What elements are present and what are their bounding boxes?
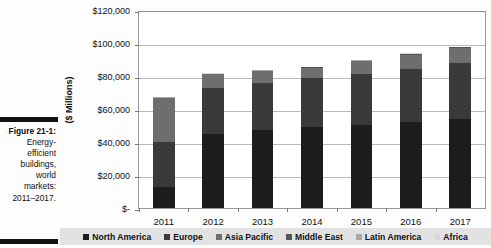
legend-label: Africa xyxy=(443,232,467,242)
stacked-bar-chart: ($ Millions) $-$20,000$40,000$60,000$80,… xyxy=(60,0,491,248)
bar-segment xyxy=(449,48,471,63)
bar-segment xyxy=(351,74,373,125)
bar-segment xyxy=(153,98,175,142)
legend-item[interactable]: Europe xyxy=(164,232,203,242)
bar-slot: 2014 xyxy=(287,12,336,208)
stacked-bar[interactable] xyxy=(301,67,323,208)
y-axis-tick-label: $20,000 xyxy=(78,171,130,181)
legend-swatch-icon xyxy=(83,234,89,240)
caption-rule-bottom xyxy=(0,239,58,244)
figure-container: Figure 21-1: Energy- efficient buildings… xyxy=(0,0,491,248)
x-axis-tick-label: 2015 xyxy=(337,216,386,227)
bar-segment xyxy=(400,55,422,69)
figure-caption-line: efficient xyxy=(0,148,56,159)
bar-segment xyxy=(400,69,422,123)
figure-caption-number: Figure 21-1: xyxy=(0,126,56,137)
figure-caption: Figure 21-1: Energy- efficient buildings… xyxy=(0,126,56,204)
bar-slot: 2016 xyxy=(386,12,435,208)
bar-segment xyxy=(351,61,373,73)
chart-legend: North AmericaEuropeAsia PacificMiddle Ea… xyxy=(60,228,491,245)
legend-item[interactable]: Latin America xyxy=(356,232,422,242)
stacked-bar[interactable] xyxy=(351,60,373,208)
stacked-bar[interactable] xyxy=(449,47,471,208)
x-axis-tick-label: 2017 xyxy=(436,216,485,227)
x-axis-tick-mark xyxy=(238,208,239,212)
x-axis-tick-mark xyxy=(386,208,387,212)
bar-segment xyxy=(252,83,274,130)
y-axis-tick-labels: $-$20,000$40,000$60,000$80,000$100,000$1… xyxy=(74,0,130,220)
plot-area: 2011201220132014201520162017 xyxy=(138,11,486,209)
bar-segment xyxy=(153,142,175,187)
legend-label: Latin America xyxy=(365,232,422,242)
legend-item[interactable]: North America xyxy=(83,232,151,242)
figure-caption-column: Figure 21-1: Energy- efficient buildings… xyxy=(0,0,60,248)
x-axis-tick-mark xyxy=(188,208,189,212)
y-axis-tick-label: $80,000 xyxy=(78,72,130,82)
bar-slot: 2015 xyxy=(337,12,386,208)
figure-caption-line: buildings, xyxy=(0,159,56,170)
y-axis-tick-label: $40,000 xyxy=(78,138,130,148)
y-axis-title: ($ Millions) xyxy=(64,77,74,124)
y-axis-tick-label: $120,000 xyxy=(78,6,130,16)
legend-label: Middle East xyxy=(295,232,343,242)
stacked-bar[interactable] xyxy=(202,73,224,208)
y-axis-tick-label: $- xyxy=(78,204,130,214)
bar-segment xyxy=(252,71,274,83)
bar-segment xyxy=(301,68,323,79)
x-axis-tick-label: 2011 xyxy=(139,216,188,227)
figure-caption-line: markets: xyxy=(0,181,56,192)
bar-segment xyxy=(153,187,175,208)
legend-swatch-icon xyxy=(216,234,222,240)
legend-item[interactable]: Middle East xyxy=(286,232,343,242)
bar-slot: 2012 xyxy=(188,12,237,208)
bar-segment xyxy=(301,78,323,127)
caption-rule-top xyxy=(0,117,58,122)
bar-segment xyxy=(400,122,422,208)
legend-label: Europe xyxy=(173,232,203,242)
y-axis-tick-label: $60,000 xyxy=(78,105,130,115)
bar-segment xyxy=(202,134,224,208)
bar-slot: 2013 xyxy=(238,12,287,208)
x-axis-tick-mark xyxy=(436,208,437,212)
figure-caption-line: Energy- xyxy=(0,137,56,148)
bar-segment xyxy=(449,119,471,208)
x-axis-tick-mark xyxy=(287,208,288,212)
x-axis-tick-label: 2014 xyxy=(287,216,336,227)
x-axis-tick-mark xyxy=(337,208,338,212)
legend-label: Asia Pacific xyxy=(225,232,273,242)
bar-segment xyxy=(351,125,373,208)
legend-item[interactable]: Asia Pacific xyxy=(216,232,273,242)
figure-caption-line: 2011–2017. xyxy=(0,193,56,204)
legend-label: North America xyxy=(92,232,151,242)
legend-swatch-icon xyxy=(434,234,440,240)
legend-swatch-icon xyxy=(164,234,170,240)
bar-segment xyxy=(202,74,224,88)
bar-slot: 2011 xyxy=(139,12,188,208)
bar-segment xyxy=(301,127,323,208)
figure-caption-line: world xyxy=(0,170,56,181)
y-axis-tick-label: $100,000 xyxy=(78,39,130,49)
bar-group: 2011201220132014201520162017 xyxy=(139,12,485,208)
x-axis-tick-label: 2012 xyxy=(188,216,237,227)
stacked-bar[interactable] xyxy=(153,97,175,208)
x-axis-tick-label: 2013 xyxy=(238,216,287,227)
bar-segment xyxy=(202,88,224,133)
legend-swatch-icon xyxy=(356,234,362,240)
legend-swatch-icon xyxy=(286,234,292,240)
stacked-bar[interactable] xyxy=(400,53,422,208)
bar-segment xyxy=(252,130,274,208)
x-axis-tick-mark xyxy=(139,208,140,212)
x-axis-tick-label: 2016 xyxy=(386,216,435,227)
bar-slot: 2017 xyxy=(436,12,485,208)
stacked-bar[interactable] xyxy=(252,70,274,208)
legend-item[interactable]: Africa xyxy=(434,232,467,242)
bar-segment xyxy=(449,63,471,119)
